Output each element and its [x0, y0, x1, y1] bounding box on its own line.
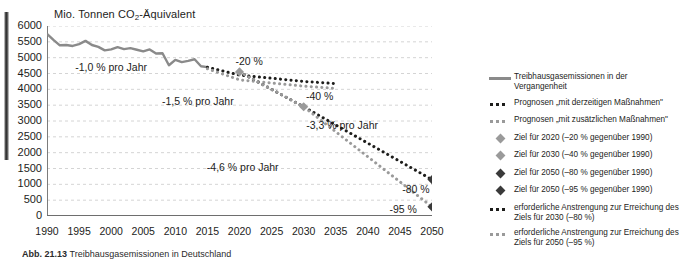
legend-diamond-icon [489, 168, 514, 180]
legend-item: Ziel für 2020 (–20 % gegenüber 1990) [489, 133, 682, 145]
x-tick-label: 2040 [356, 225, 379, 237]
x-tick-label: 2005 [132, 225, 155, 237]
figure-caption: Abb. 21.13 Treibhausgasemissionen in Deu… [22, 249, 442, 259]
caption-figure-number: Abb. 21.13 [22, 249, 67, 259]
y-tick-label: 4000 [2, 82, 42, 94]
chart-annotation: -80 % [402, 183, 429, 195]
legend-solid-line-icon [489, 72, 514, 84]
legend-dotted-line-icon [489, 115, 514, 127]
y-axis-title-pre: Mio. Tonnen CO [54, 8, 135, 20]
chart-annotation: -95 % [389, 203, 416, 215]
y-tick-label: 3000 [2, 114, 42, 126]
x-axis-tick-labels: 1990199520002005201020152020202520302035… [47, 225, 437, 239]
legend-item: Prognosen „mit derzeitigen Maßnahmen" [489, 98, 682, 110]
x-tick-label: 1990 [35, 225, 58, 237]
chart-annotation: -4,6 % pro Jahr [207, 161, 279, 173]
x-tick-label: 2030 [292, 225, 315, 237]
y-axis-title: Mio. Tonnen CO2-Äquivalent [54, 8, 195, 22]
y-tick-label: 500 [2, 193, 42, 205]
figure-root: Mio. Tonnen CO2-Äquivalent 6000550050004… [0, 0, 682, 259]
y-axis-title-post: -Äquivalent [139, 8, 195, 20]
legend-item-label: Prognosen „mit zusätzlichen Maßnahmen" [514, 115, 668, 125]
chart-annotation: -3,3 % pro Jahr [306, 119, 378, 131]
legend-item: Treibhausgasemissionen in der Vergangenh… [489, 72, 682, 92]
target-marker-3 [427, 202, 432, 211]
legend-dotted-line-icon [489, 228, 514, 240]
y-tick-label: 5500 [2, 35, 42, 47]
legend-dotted-line-icon [489, 203, 514, 215]
x-tick-label: 2025 [260, 225, 283, 237]
y-axis-tick-labels: 6000550050004500400035003000250020001500… [0, 26, 42, 216]
legend-item-label: Ziel für 2050 (–95 % gegenüber 1990) [514, 185, 652, 195]
legend-item-label: erforderliche Anstrengung zur Erreichung… [514, 228, 682, 248]
legend-diamond-icon [489, 150, 514, 162]
y-tick-label: 1500 [2, 162, 42, 174]
y-tick-label: 2500 [2, 130, 42, 142]
x-tick-label: 2035 [324, 225, 347, 237]
legend-item-label: Ziel für 2030 (–40 % gegenüber 1990) [514, 150, 652, 160]
chart-annotation: -40 % [306, 90, 333, 102]
x-tick-label: 2045 [388, 225, 411, 237]
x-tick-label: 2020 [228, 225, 251, 237]
chart-legend: Treibhausgasemissionen in der Vergangenh… [489, 72, 682, 254]
plot-area: -1,0 % pro Jahr-1,5 % pro Jahr-3,3 % pro… [47, 26, 432, 216]
y-tick-label: 4500 [2, 67, 42, 79]
chart-annotation: -20 % [235, 55, 262, 67]
legend-item-label: Prognosen „mit derzeitigen Maßnahmen" [514, 98, 663, 108]
legend-item-label: Ziel für 2050 (–80 % gegenüber 1990) [514, 168, 652, 178]
y-tick-label: 5000 [2, 51, 42, 63]
legend-item: Ziel für 2050 (–95 % gegenüber 1990) [489, 185, 682, 197]
legend-item-label: Ziel für 2020 (–20 % gegenüber 1990) [514, 133, 652, 143]
x-tick-label: 2015 [196, 225, 219, 237]
legend-item: erforderliche Anstrengung zur Erreichung… [489, 203, 682, 223]
y-tick-label: 0 [2, 209, 42, 221]
legend-item: Ziel für 2030 (–40 % gegenüber 1990) [489, 150, 682, 162]
legend-item-label: erforderliche Anstrengung zur Erreichung… [514, 203, 682, 223]
chart-annotation: -1,5 % pro Jahr [162, 95, 234, 107]
caption-text: Treibhausgasemissionen in Deutschland [70, 249, 232, 259]
chart-annotation: -1,0 % pro Jahr [75, 61, 147, 73]
legend-diamond-icon [489, 185, 514, 197]
x-tick-label: 2050 [420, 225, 443, 237]
y-tick-label: 2000 [2, 146, 42, 158]
y-tick-label: 3500 [2, 98, 42, 110]
legend-item: Prognosen „mit zusätzlichen Maßnahmen" [489, 115, 682, 127]
x-tick-label: 1995 [67, 225, 90, 237]
x-tick-label: 2000 [99, 225, 122, 237]
legend-item: erforderliche Anstrengung zur Erreichung… [489, 228, 682, 248]
y-tick-label: 1000 [2, 177, 42, 189]
x-tick-label: 2010 [164, 225, 187, 237]
y-tick-label: 6000 [2, 19, 42, 31]
legend-dotted-line-icon [489, 98, 514, 110]
legend-diamond-icon [489, 133, 514, 145]
legend-item: Ziel für 2050 (–80 % gegenüber 1990) [489, 168, 682, 180]
legend-item-label: Treibhausgasemissionen in der Vergangenh… [514, 72, 682, 92]
